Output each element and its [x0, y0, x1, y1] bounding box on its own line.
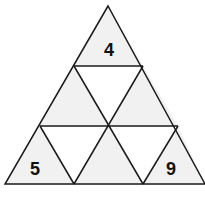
bottom-right-number: 9 [166, 159, 176, 179]
top-number: 4 [104, 40, 114, 60]
bottom-left-number: 5 [30, 159, 40, 179]
triangle-puzzle: 4 5 9 [0, 0, 205, 197]
